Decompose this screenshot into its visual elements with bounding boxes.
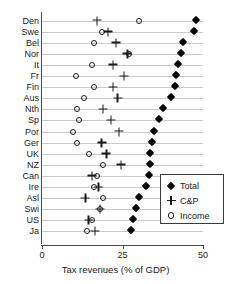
data-point-cp-nor [123, 49, 132, 58]
gridline [42, 98, 203, 99]
data-point-income-sp [76, 117, 82, 123]
y-axis-label-it: It [1, 60, 39, 69]
data-point-cp-swe [104, 27, 113, 36]
data-point-income-it [89, 62, 95, 68]
y-axis-label-nth: Nth [1, 105, 39, 114]
data-point-income-nth [74, 106, 80, 112]
x-tick [123, 245, 124, 249]
data-point-cp-bel [112, 38, 121, 47]
data-point-cp-nz [116, 160, 125, 169]
data-point-income-den [136, 18, 142, 24]
data-point-income-uk [86, 151, 92, 157]
y-axis-label-ire: Ire [1, 183, 39, 192]
y-axis-label-ja: Ja [1, 227, 39, 236]
data-point-cp-sp [107, 116, 116, 125]
data-point-cp-swi [95, 205, 104, 214]
data-point-income-fin [91, 84, 97, 90]
gridline [42, 143, 203, 144]
x-tick [203, 245, 204, 249]
y-axis-label-swi: Swi [1, 205, 39, 214]
data-point-cp-us [84, 216, 93, 225]
data-point-income-ger [74, 140, 80, 146]
plus-icon [165, 195, 177, 207]
x-tick-label: 50 [198, 250, 208, 260]
data-point-cp-ja [91, 227, 100, 236]
data-point-cp-asl [81, 194, 90, 203]
gridline [42, 109, 203, 110]
gridline [42, 231, 203, 232]
data-point-income-aus [81, 95, 87, 101]
gridline [42, 154, 203, 155]
y-axis-label-uk: UK [1, 149, 39, 158]
y-axis-label-bel: Bel [1, 38, 39, 47]
data-point-cp-can [87, 171, 96, 180]
legend-entry-cp: C&P [165, 193, 220, 208]
data-point-cp-fin [108, 83, 117, 92]
y-axis-label-nz: NZ [1, 160, 39, 169]
y-axis-label-asl: Asl [1, 194, 39, 203]
filled-diamond-icon [165, 180, 177, 192]
data-point-cp-ger [97, 138, 106, 147]
y-axis-label-swe: Swe [1, 27, 39, 36]
y-axis-line [41, 12, 42, 244]
gridline [42, 32, 203, 33]
legend-entry-income: Income [165, 208, 220, 223]
gridline [42, 21, 203, 22]
x-tick [42, 245, 43, 249]
legend-label-cp: C&P [180, 196, 199, 206]
data-point-cp-aus [113, 94, 122, 103]
data-point-cp-den [92, 16, 101, 25]
x-axis-title: Tax revenues (% of GDP) [0, 264, 231, 275]
chart-legend: Total C&P Income [160, 174, 224, 224]
data-point-cp-it [108, 60, 117, 69]
gridline [42, 87, 203, 88]
y-axis-label-us: US [1, 216, 39, 225]
data-point-income-ja [84, 228, 90, 234]
y-axis-label-fr: Fr [1, 72, 39, 81]
x-tick-label: 25 [117, 250, 127, 260]
legend-label-total: Total [180, 181, 199, 191]
legend-entry-total: Total [165, 178, 220, 193]
data-point-cp-por [115, 127, 124, 136]
data-point-income-fr [73, 73, 79, 79]
data-point-income-por [70, 129, 76, 135]
data-point-cp-uk [102, 149, 111, 158]
y-axis-label-can: Can [1, 171, 39, 180]
y-axis-category-labels: DenSweBelNorItFrFinAusNthSpPorGerUKNZCan… [0, 0, 39, 284]
y-axis-label-fin: Fin [1, 83, 39, 92]
tax-revenues-scatter-chart: DenSweBelNorItFrFinAusNthSpPorGerUKNZCan… [0, 0, 231, 284]
y-axis-label-sp: Sp [1, 116, 39, 125]
legend-label-income: Income [180, 211, 210, 221]
data-point-cp-fr [120, 72, 129, 81]
data-point-cp-ire [94, 183, 103, 192]
data-point-income-bel [91, 40, 97, 46]
data-point-income-nz [100, 162, 106, 168]
y-axis-label-por: Por [1, 127, 39, 136]
y-axis-label-nor: Nor [1, 49, 39, 58]
gridline [42, 120, 203, 121]
data-point-income-asl [100, 195, 106, 201]
y-axis-label-den: Den [1, 16, 39, 25]
y-axis-label-ger: Ger [1, 138, 39, 147]
open-circle-icon [165, 210, 177, 222]
data-point-cp-nth [99, 105, 108, 114]
x-tick-label: 0 [39, 250, 44, 260]
y-axis-label-aus: Aus [1, 94, 39, 103]
